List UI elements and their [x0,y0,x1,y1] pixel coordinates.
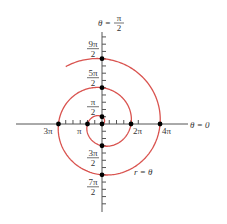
axis-label-numerator: 5π [88,68,98,78]
axis-label-numerator: 7π [88,177,98,187]
axis-label-denominator: 2 [91,49,96,59]
vertical-axis-label-num: π [117,13,122,23]
point-theta-9π/2 [100,56,105,61]
axis-label-denominator: 2 [91,187,96,197]
axis-label-numerator: 9π [88,39,98,49]
polar-axis-label: θ = 0 [190,120,210,130]
equation-label: r = θ [134,167,153,177]
spiral-curve [58,59,160,175]
axis-label-denominator: 2 [91,107,96,117]
axis-label: 3π [43,126,53,136]
axis-label-denominator: 2 [91,158,96,168]
point-theta-0 [100,122,105,127]
axis-label-denominator: 2 [91,78,96,88]
axis-label: 4π [162,126,172,136]
point-theta-3π/2 [100,143,105,148]
axis-label-numerator: π [91,97,96,107]
point-theta-7π/2 [100,172,105,177]
points [56,56,162,177]
vertical-axis-label-den: 2 [117,23,122,33]
point-theta-3π [56,122,61,127]
axis-label-numerator: 3π [88,148,98,158]
point-theta-π/2 [100,114,105,119]
axis-label: 2π [133,126,143,136]
vertical-axis-label: θ = [98,18,111,28]
spiral-diagram: 3ππ2π4π9π25π2π23π27π2θ = π2 r = θ θ = 0 [0,0,227,224]
point-theta-π [85,122,90,127]
point-theta-5π/2 [100,85,105,90]
axis-label: π [77,126,82,136]
